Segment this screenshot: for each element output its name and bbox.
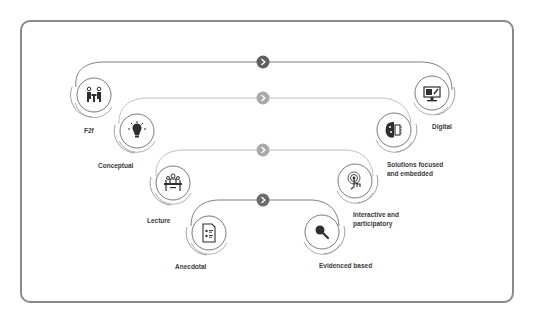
brain-chip-icon bbox=[386, 122, 402, 138]
level-1-chevron bbox=[257, 56, 270, 69]
label-solutions-line1: Solutions focused bbox=[387, 160, 443, 169]
label-digital: Digital bbox=[432, 122, 452, 131]
label-interactive-line1: Interactive and bbox=[353, 210, 399, 219]
label-f2f: F2f bbox=[84, 126, 94, 135]
label-conceptual: Conceptual bbox=[98, 161, 133, 170]
label-solutions-line2: and embedded bbox=[387, 169, 433, 178]
magnifier-icon bbox=[316, 226, 329, 239]
level-4-chevron bbox=[257, 194, 270, 207]
transition-diagram bbox=[0, 0, 533, 321]
computer-monitor-icon bbox=[424, 87, 440, 101]
label-interactive-line2: participatory bbox=[353, 219, 392, 228]
lecture-panel-icon bbox=[164, 174, 182, 191]
document-list-icon bbox=[203, 224, 215, 242]
level-2-chevron bbox=[257, 92, 270, 105]
label-anecdotal: Anecdotal bbox=[175, 262, 206, 271]
meeting-people-icon bbox=[87, 87, 101, 102]
label-lecture: Lecture bbox=[147, 216, 170, 225]
label-evidenced-based: Evidenced based bbox=[319, 261, 372, 270]
f2f-node bbox=[70, 78, 112, 118]
conceptual-node bbox=[114, 114, 155, 153]
anecdotal-node bbox=[186, 216, 227, 255]
level-3-chevron bbox=[257, 144, 270, 157]
touch-hand-icon bbox=[348, 172, 360, 189]
lightbulb-icon bbox=[128, 121, 146, 138]
digital-node bbox=[414, 76, 455, 115]
